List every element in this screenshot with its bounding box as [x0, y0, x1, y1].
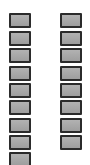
grid-cell[interactable] — [9, 48, 31, 63]
grid-cell[interactable] — [60, 13, 82, 28]
right-column — [60, 0, 84, 165]
grid-cell[interactable] — [60, 135, 82, 150]
grid-cell[interactable] — [9, 152, 31, 165]
left-column — [9, 0, 33, 165]
grid-cell[interactable] — [9, 66, 31, 81]
grid-cell-fill — [62, 102, 80, 113]
grid-cell-fill — [11, 137, 29, 148]
grid-cell-fill — [11, 68, 29, 79]
grid-cell-fill — [11, 85, 29, 96]
grid-cell-fill — [62, 85, 80, 96]
grid-cell[interactable] — [60, 31, 82, 46]
grid-cell[interactable] — [60, 66, 82, 81]
grid-cell-fill — [11, 120, 29, 131]
grid-cell[interactable] — [9, 31, 31, 46]
grid-cell[interactable] — [9, 83, 31, 98]
grid-cell[interactable] — [9, 135, 31, 150]
grid-cell[interactable] — [60, 48, 82, 63]
grid-cell-fill — [11, 154, 29, 165]
grid-cell-fill — [62, 68, 80, 79]
grid-cell[interactable] — [9, 100, 31, 115]
grid-cell-fill — [11, 50, 29, 61]
grid-cell-fill — [11, 15, 29, 26]
app-root — [0, 0, 90, 165]
grid-cell[interactable] — [9, 13, 31, 28]
grid-cell-fill — [11, 33, 29, 44]
grid-cell[interactable] — [60, 118, 82, 133]
grid-cell-fill — [62, 33, 80, 44]
grid-cell-fill — [62, 15, 80, 26]
grid-cell[interactable] — [9, 118, 31, 133]
grid-cell[interactable] — [60, 100, 82, 115]
grid-cell-fill — [62, 120, 80, 131]
grid-cell-fill — [62, 137, 80, 148]
grid-cell-fill — [11, 102, 29, 113]
grid-cell-fill — [62, 50, 80, 61]
grid-cell[interactable] — [60, 83, 82, 98]
